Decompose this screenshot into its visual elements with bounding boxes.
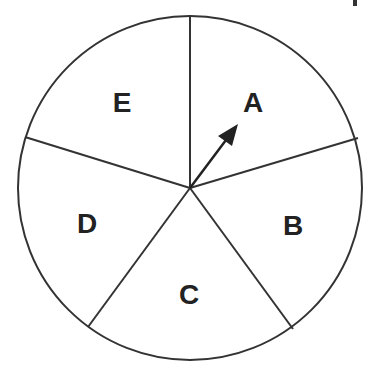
section-label-c: C [179, 279, 199, 310]
section-label-b: B [283, 210, 303, 241]
section-label-d: D [77, 208, 97, 239]
section-label-e: E [113, 87, 132, 118]
section-label-a: A [243, 87, 263, 118]
spinner-diagram: A B C D E [0, 0, 370, 377]
